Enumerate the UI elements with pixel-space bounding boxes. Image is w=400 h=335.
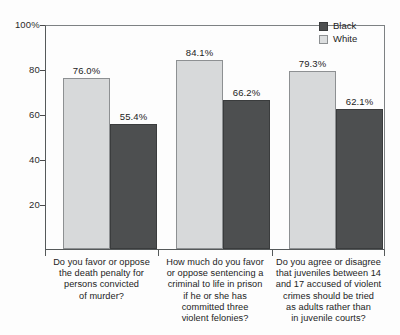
category-label-2-line3: criminal to life in prison — [158, 279, 272, 290]
category-label-1-line4: of murder? — [45, 291, 158, 302]
value-label-group3-black: 62.1% — [336, 96, 383, 107]
x-axis-tick-group1 — [158, 250, 159, 256]
value-label-group2-black: 66.2% — [223, 87, 270, 98]
category-label-3-line6: in juvenile courts? — [272, 313, 385, 324]
y-tick-label-80: 80 — [2, 65, 40, 75]
y-tick-label-100: 100% — [2, 20, 40, 30]
legend-label-black: Black — [333, 21, 356, 31]
bar-group2-black[interactable] — [223, 100, 270, 249]
category-label-1-line1: Do you favor or oppose — [45, 257, 158, 268]
bar-group1-white[interactable] — [63, 78, 110, 249]
category-label-2: How much do you favor or oppose sentenci… — [158, 257, 272, 324]
legend: Black White — [319, 20, 383, 46]
bar-chart: 100% 80 60 40 20 76.0% 55.4% 84.1% 66.2%… — [0, 0, 400, 335]
plot-area: 76.0% 55.4% 84.1% 66.2% 79.3% 62.1% Blac… — [45, 25, 385, 250]
legend-entry-white[interactable]: White — [319, 33, 383, 45]
category-label-2-line1: How much do you favor — [158, 257, 272, 268]
category-label-2-line4: if he or she has — [158, 291, 272, 302]
legend-label-white: White — [333, 34, 357, 44]
category-label-2-line5: committed three — [158, 302, 272, 313]
category-label-1-line2: the death penalty for — [45, 268, 158, 279]
category-label-1: Do you favor or oppose the death penalty… — [45, 257, 158, 302]
y-tick-label-40: 40 — [2, 155, 40, 165]
x-axis-tick-start — [45, 250, 46, 256]
bar-group3-white[interactable] — [289, 71, 336, 249]
category-label-2-line6: violent felonies? — [158, 313, 272, 324]
value-label-group3-white: 79.3% — [289, 58, 336, 69]
bar-group2-white[interactable] — [176, 60, 223, 249]
y-tick-label-20: 20 — [2, 200, 40, 210]
value-label-group1-black: 55.4% — [110, 111, 157, 122]
category-label-2-line2: or oppose sentencing a — [158, 268, 272, 279]
legend-swatch-white-icon — [319, 35, 328, 44]
bar-group3-black[interactable] — [336, 109, 383, 249]
category-label-3-line3: and 17 accused of violent — [272, 279, 385, 290]
category-label-3: Do you agree or disagree that juveniles … — [272, 257, 385, 324]
y-tick-label-60: 60 — [2, 110, 40, 120]
legend-swatch-black-icon — [319, 22, 328, 31]
x-axis-tick-group2 — [272, 250, 273, 256]
bar-group1-black[interactable] — [110, 124, 157, 249]
category-label-1-line3: persons convicted — [45, 279, 158, 290]
x-axis-tick-end — [384, 250, 385, 256]
category-label-3-line4: crimes should be tried — [272, 291, 385, 302]
y-axis: 100% 80 60 40 20 — [0, 0, 40, 335]
value-label-group1-white: 76.0% — [63, 65, 110, 76]
category-label-3-line1: Do you agree or disagree — [272, 257, 385, 268]
value-label-group2-white: 84.1% — [176, 47, 223, 58]
category-label-3-line5: as adults rather than — [272, 302, 385, 313]
legend-entry-black[interactable]: Black — [319, 20, 383, 32]
category-label-3-line2: that juveniles between 14 — [272, 268, 385, 279]
x-axis-labels: Do you favor or oppose the death penalty… — [45, 257, 385, 335]
